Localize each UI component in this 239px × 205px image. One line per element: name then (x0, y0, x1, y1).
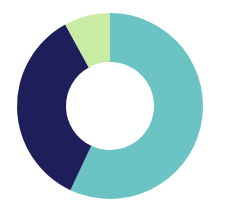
donut-slices (17, 13, 203, 199)
donut-chart-svg (0, 0, 239, 205)
donut-chart (0, 0, 239, 205)
